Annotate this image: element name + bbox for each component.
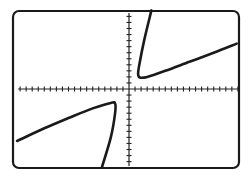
calculator-screen bbox=[0, 0, 252, 180]
